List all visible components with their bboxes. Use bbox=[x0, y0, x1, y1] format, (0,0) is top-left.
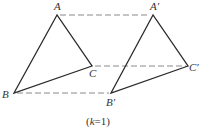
label-b-prime: B′ bbox=[106, 96, 116, 108]
label-b: B bbox=[2, 88, 9, 100]
label-a: A bbox=[53, 0, 61, 12]
translation-diagram: A B C A′ B′ C′ (k=1) bbox=[0, 0, 209, 132]
label-c: C bbox=[89, 67, 97, 79]
label-c-prime: C′ bbox=[189, 61, 199, 73]
triangle-abc bbox=[14, 15, 92, 93]
triangle-a-prime-b-prime-c-prime bbox=[111, 15, 188, 93]
label-a-prime: A′ bbox=[149, 0, 160, 12]
caption: (k=1) bbox=[86, 115, 110, 128]
caption-rest: =1) bbox=[95, 115, 111, 128]
